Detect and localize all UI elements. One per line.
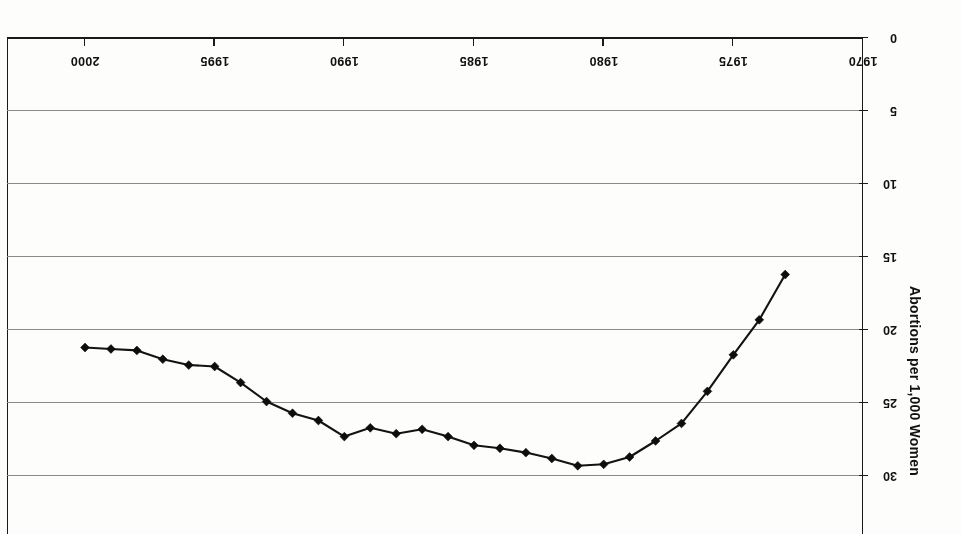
data-point <box>81 343 90 352</box>
chart-page: 2000199519901985198019751970 05101520253… <box>0 0 962 534</box>
series-line <box>85 275 785 466</box>
data-point <box>521 448 530 457</box>
data-point <box>288 409 297 418</box>
data-point <box>470 441 479 450</box>
data-point <box>418 425 427 434</box>
data-point <box>392 429 401 438</box>
data-series-layer <box>0 0 962 534</box>
rotated-chart-wrapper: 2000199519901985198019751970 05101520253… <box>0 0 962 534</box>
data-point <box>599 460 608 469</box>
data-point <box>107 345 116 354</box>
data-point <box>366 423 375 432</box>
data-point <box>573 461 582 470</box>
data-point <box>444 432 453 441</box>
data-point <box>781 270 790 279</box>
series-markers <box>81 270 790 470</box>
data-point <box>547 454 556 463</box>
data-point <box>158 355 167 364</box>
data-point <box>184 361 193 370</box>
data-point <box>496 444 505 453</box>
data-point <box>132 346 141 355</box>
